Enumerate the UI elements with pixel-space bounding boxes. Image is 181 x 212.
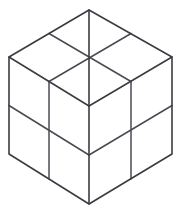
figure-canvas — [0, 0, 181, 212]
isometric-cube-figure — [0, 0, 181, 212]
